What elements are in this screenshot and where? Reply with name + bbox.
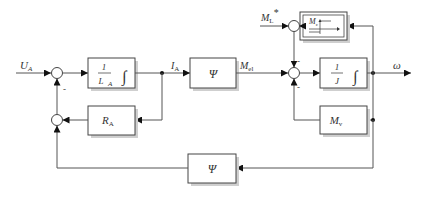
flux-feedback-block: Ψ <box>188 154 239 186</box>
ia-label: IA <box>170 60 179 73</box>
feedback-summing-junction <box>52 115 63 126</box>
svg-text:A: A <box>107 80 113 88</box>
viscous-friction-block: Mv <box>320 106 370 137</box>
minus-sign-bottom: - <box>297 82 300 92</box>
mel-label: Mel <box>239 60 253 73</box>
inertia-integrator-block: 1 J ∫ <box>320 58 370 91</box>
svg-text:1: 1 <box>335 62 340 72</box>
torque-summing-junction <box>289 68 300 79</box>
left-summing-junction <box>52 68 63 79</box>
omega-label: ω <box>393 59 401 71</box>
line-ia-to-ra <box>135 73 162 120</box>
flux-forward-block: Ψ <box>190 58 239 91</box>
svg-text:1: 1 <box>102 62 107 72</box>
load-summing-junction <box>289 21 300 32</box>
ml-label: ML* <box>260 7 279 25</box>
armature-resistance-block: RA <box>88 106 138 138</box>
friction-block: Mc <box>300 12 350 43</box>
block-diagram: UA - 1 L A ∫ IA Ψ Mel - - 1 J ∫ <box>0 0 423 197</box>
minus-sign-top: - <box>297 56 300 66</box>
ua-label: UA <box>20 59 33 73</box>
minus-sign-left: - <box>63 84 66 94</box>
svg-text:L: L <box>97 76 103 86</box>
armature-integrator-block: 1 L A ∫ <box>88 58 138 91</box>
